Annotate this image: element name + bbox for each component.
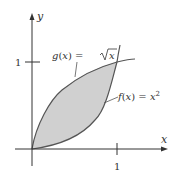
g-label: g(x) = [52, 50, 83, 61]
g-leader-line [75, 62, 77, 77]
g-label-expr: x [109, 50, 115, 61]
y-axis-label: y [36, 10, 44, 23]
y-tick-label: 1 [15, 57, 21, 68]
y-axis-arrow-icon [30, 13, 35, 20]
x-tick-label: 1 [114, 161, 120, 172]
x-axis-label: x [161, 133, 168, 146]
x-axis-arrow-icon [161, 147, 168, 152]
f-label: f(x) = x2 [117, 90, 160, 102]
chart-figure: y x 1 1 g(x) = x f(x) = x2 [0, 0, 179, 181]
